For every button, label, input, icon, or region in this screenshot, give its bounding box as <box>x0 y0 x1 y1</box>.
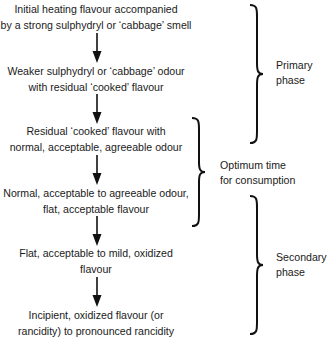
secondary-phase-brace-icon <box>248 194 268 336</box>
flow-step-3: Residual ‘cooked’ flavour with normal, a… <box>0 124 192 155</box>
flow-step-4-line1: Normal, acceptable to agreeable odour, <box>0 186 192 202</box>
flow-step-6-line2: rancidity) to pronounced rancidity <box>0 324 192 340</box>
optimum-time-brace-icon <box>190 116 210 228</box>
flow-step-6-line1: Incipient, oxidized flavour (or <box>0 308 192 324</box>
down-arrow-icon <box>91 94 103 124</box>
optimum-time-label: Optimum time for consumption <box>220 158 295 188</box>
down-arrow-icon <box>91 155 103 185</box>
flow-step-5-line1: Flat, acceptable to mild, oxidized <box>0 246 192 262</box>
flow-step-6: Incipient, oxidized flavour (or rancidit… <box>0 308 192 339</box>
flow-step-5-line2: flavour <box>0 262 192 278</box>
down-arrow-icon <box>91 33 103 63</box>
flow-step-3-line1: Residual ‘cooked’ flavour with <box>0 124 192 140</box>
flow-step-1: Initial heating flavour accompanied by a… <box>0 2 192 33</box>
flow-step-4-line2: flat, acceptable flavour <box>0 202 192 218</box>
flow-step-1-line1: Initial heating flavour accompanied <box>0 2 192 18</box>
primary-phase-label: Primary phase <box>276 58 313 88</box>
down-arrow-icon <box>91 216 103 246</box>
down-arrow-icon <box>91 277 103 307</box>
primary-phase-brace-icon <box>248 3 268 145</box>
flow-step-5: Flat, acceptable to mild, oxidized flavo… <box>0 246 192 277</box>
flow-step-4: Normal, acceptable to agreeable odour, f… <box>0 186 192 217</box>
flow-step-2-line2: with residual ‘cooked’ flavour <box>0 80 192 96</box>
flow-step-2: Weaker sulphydryl or ‘cabbage’ odour wit… <box>0 64 192 95</box>
flow-step-1-line2: by a strong sulphydryl or ‘cabbage’ smel… <box>0 18 192 34</box>
flow-step-2-line1: Weaker sulphydryl or ‘cabbage’ odour <box>0 64 192 80</box>
secondary-phase-label: Secondary phase <box>276 250 327 280</box>
flow-step-3-line2: normal, acceptable, agreeable odour <box>0 140 192 156</box>
